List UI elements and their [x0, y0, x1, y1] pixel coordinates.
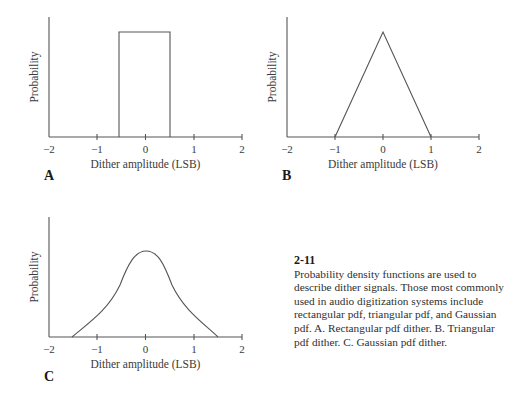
y-axis-title: Probability	[28, 51, 41, 102]
svg-text:1: 1	[191, 343, 197, 355]
svg-text:2: 2	[239, 143, 245, 155]
panel-letter-b: B	[282, 168, 291, 183]
panel-letter-c: C	[44, 369, 54, 384]
y-axis-title: Probability	[28, 251, 41, 302]
svg-text:−2: −2	[43, 143, 55, 155]
figure-caption: 2-11 Probability density functions are u…	[294, 254, 510, 349]
x-axis-title: Dither amplitude (LSB)	[91, 358, 201, 371]
tick-labels-a: −2 −1 0 1 2	[43, 143, 245, 155]
svg-text:−1: −1	[91, 343, 103, 355]
svg-text:0: 0	[380, 143, 386, 155]
svg-text:2: 2	[476, 143, 482, 155]
caption-text: Probability density functions are used t…	[294, 268, 504, 348]
svg-text:1: 1	[191, 143, 197, 155]
chart-panel-a	[49, 17, 242, 140]
svg-text:−1: −1	[329, 143, 341, 155]
panel-letter-a: A	[44, 168, 55, 183]
gaussian-pdf-curve	[72, 251, 218, 337]
tick-labels-c: −2 −1 0 1 2	[43, 343, 245, 355]
svg-text:−2: −2	[43, 343, 55, 355]
svg-text:0: 0	[143, 343, 149, 355]
svg-text:−1: −1	[91, 143, 103, 155]
rectangular-pdf-line	[119, 32, 170, 137]
x-axis-title: Dither amplitude (LSB)	[91, 158, 201, 171]
chart-panel-c	[49, 217, 242, 340]
caption-number: 2-11	[294, 254, 510, 268]
svg-text:0: 0	[143, 143, 149, 155]
triangular-pdf-line	[335, 32, 431, 137]
tick-labels-b: −2 −1 0 1 2	[281, 143, 482, 155]
svg-text:2: 2	[239, 343, 245, 355]
svg-text:1: 1	[428, 143, 434, 155]
y-axis-title: Probability	[266, 51, 279, 102]
chart-panel-b	[287, 17, 479, 140]
svg-text:−2: −2	[281, 143, 293, 155]
x-axis-title: Dither amplitude (LSB)	[328, 158, 438, 171]
